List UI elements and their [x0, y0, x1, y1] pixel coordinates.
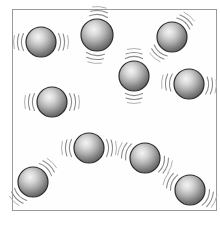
figure-root	[0, 0, 220, 227]
vibration-arc-icon	[93, 6, 107, 8]
particle-box	[12, 9, 217, 211]
